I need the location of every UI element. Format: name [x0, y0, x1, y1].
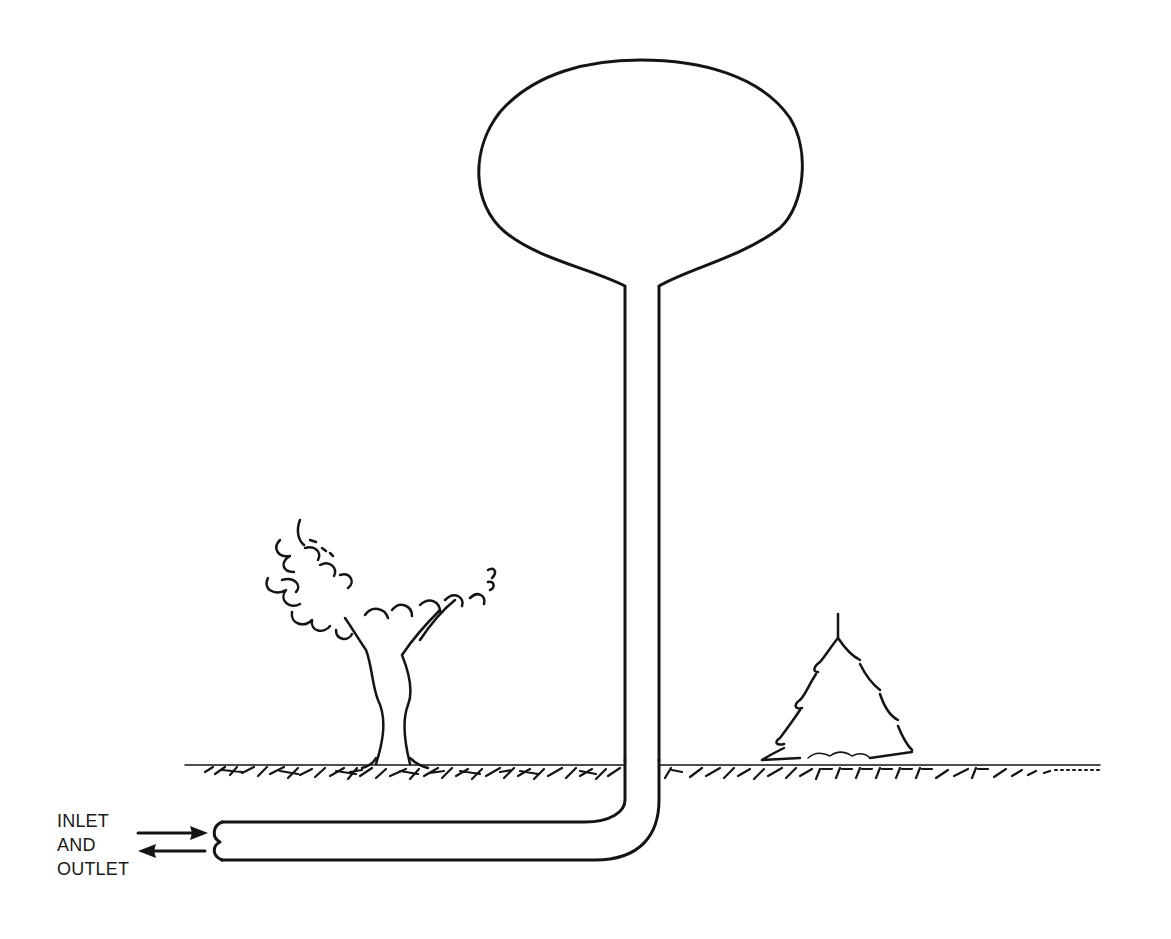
label-and: AND: [57, 834, 96, 857]
label-inlet: INLET: [57, 810, 109, 833]
deciduous-tree: [267, 520, 495, 768]
ground-line: [185, 765, 1100, 779]
tank-and-riser: [479, 60, 803, 760]
evergreen-tree: [762, 614, 912, 760]
water-tower-diagram: [0, 0, 1171, 939]
pipe-break: [214, 822, 222, 860]
inlet-arrow: [138, 826, 208, 840]
underground-pipe: [222, 760, 659, 860]
label-outlet: OUTLET: [57, 858, 129, 881]
outlet-arrow: [138, 844, 205, 858]
